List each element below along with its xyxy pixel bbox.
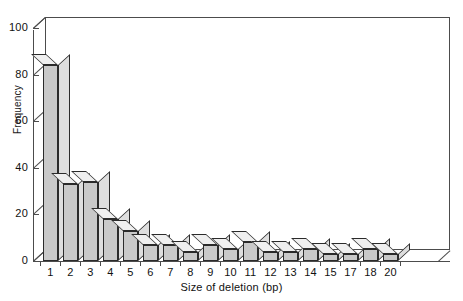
y-axis-tick-label: 40 — [2, 161, 28, 173]
y-axis-tick-label: 100 — [2, 21, 28, 33]
bar-front-face — [103, 219, 118, 261]
x-axis-tick-label: 6 — [140, 266, 162, 278]
x-axis-label: Size of deletion (bp) — [0, 281, 463, 293]
x-axis-tick-label: 18 — [360, 266, 382, 278]
bar-front-face — [83, 182, 98, 261]
bar-front-face — [203, 245, 218, 261]
bar-chart-figure: Frequency 020406080100 12345678910111213… — [0, 0, 463, 301]
bar-front-face — [183, 252, 198, 261]
x-axis-tick-mark — [40, 261, 41, 266]
bar — [103, 208, 118, 261]
x-axis-baseline — [33, 261, 450, 262]
bar-front-face — [163, 245, 178, 261]
bar — [223, 238, 238, 261]
y-axis-tick-label: 0 — [2, 254, 28, 266]
axis-depth-connector — [33, 17, 46, 29]
x-axis-tick-mark — [400, 261, 401, 266]
bar — [183, 241, 198, 261]
x-axis-tick-label: 9 — [200, 266, 222, 278]
bar — [343, 243, 358, 261]
bar-front-face — [143, 245, 158, 261]
bar — [283, 241, 298, 261]
x-axis-tick-label: 13 — [280, 266, 302, 278]
bar — [63, 173, 78, 261]
bar-top-face — [31, 54, 58, 65]
front-left-wall — [33, 30, 34, 261]
bar — [83, 171, 98, 261]
x-axis-tick-label: 12 — [260, 266, 282, 278]
y-axis-tick-label: 20 — [2, 207, 28, 219]
bar — [43, 54, 58, 261]
x-axis-tick-label: 5 — [120, 266, 142, 278]
bar-front-face — [363, 249, 378, 261]
bar-front-face — [303, 249, 318, 261]
bar — [163, 234, 178, 261]
bar-front-face — [343, 254, 358, 261]
bar — [123, 220, 138, 261]
bar-front-face — [263, 252, 278, 261]
bar-front-face — [43, 65, 58, 261]
y-axis-tick-label: 80 — [2, 68, 28, 80]
x-axis-tick-label: 2 — [60, 266, 82, 278]
x-axis-tick-label: 7 — [160, 266, 182, 278]
x-axis-tick-label: 20 — [380, 266, 402, 278]
bar-front-face — [63, 184, 78, 261]
y-axis-tick-label: 60 — [2, 114, 28, 126]
x-axis-tick-label: 1 — [40, 266, 62, 278]
bar-front-face — [223, 249, 238, 261]
x-axis-tick-label: 10 — [220, 266, 242, 278]
bar-front-face — [323, 254, 338, 261]
x-axis-tick-label: 8 — [180, 266, 202, 278]
x-axis-tick-label: 4 — [100, 266, 122, 278]
bar-front-face — [383, 254, 398, 261]
x-axis-tick-label: 15 — [320, 266, 342, 278]
bar-front-face — [283, 252, 298, 261]
bar — [383, 243, 398, 261]
x-axis-tick-label: 11 — [240, 266, 262, 278]
x-axis-tick-label: 14 — [300, 266, 322, 278]
bar — [303, 238, 318, 261]
x-axis-tick-label: 17 — [340, 266, 362, 278]
x-axis-tick-label: 3 — [80, 266, 102, 278]
bar — [363, 238, 378, 261]
